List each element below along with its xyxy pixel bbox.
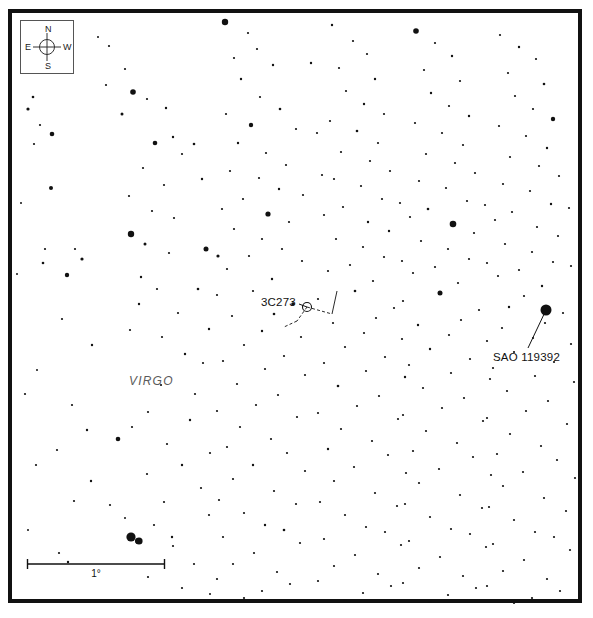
star-marker <box>468 115 470 117</box>
star-marker <box>338 67 340 69</box>
star-marker <box>177 312 179 314</box>
star-marker <box>383 256 385 258</box>
star-marker <box>553 536 555 538</box>
star-marker <box>209 593 211 595</box>
star-marker <box>478 309 480 311</box>
star-marker <box>337 385 340 388</box>
star-marker <box>451 55 453 57</box>
star-marker <box>124 517 126 519</box>
star-marker <box>273 313 276 316</box>
star-marker <box>497 275 499 277</box>
star-marker <box>32 96 35 99</box>
sao-star-marker[interactable] <box>541 305 552 316</box>
star-marker <box>518 269 520 271</box>
finder-line <box>284 321 297 327</box>
star-marker <box>344 599 346 601</box>
star-marker <box>558 175 560 177</box>
star-marker <box>173 217 175 219</box>
star-marker <box>299 542 301 544</box>
star-marker <box>434 42 436 44</box>
star-marker <box>333 480 335 482</box>
star-marker <box>216 254 219 257</box>
star-marker <box>265 152 267 154</box>
star-marker <box>74 248 76 250</box>
star-marker <box>36 369 38 371</box>
star-marker <box>393 307 395 309</box>
star-marker <box>181 153 183 155</box>
star-marker <box>441 132 443 134</box>
star-marker <box>42 262 45 265</box>
star-marker <box>511 211 513 213</box>
star-marker <box>469 358 471 360</box>
star-marker <box>466 200 468 202</box>
star-marker <box>543 497 545 499</box>
sao-119392-star[interactable] <box>541 305 552 316</box>
star-marker <box>531 597 533 599</box>
star-marker <box>232 478 234 480</box>
star-marker <box>243 512 245 514</box>
star-marker <box>165 107 167 109</box>
star-marker <box>296 416 298 418</box>
star-marker <box>550 203 552 205</box>
star-marker <box>536 226 538 228</box>
star-marker <box>388 230 390 232</box>
star-marker <box>546 147 548 149</box>
star-marker <box>344 514 346 516</box>
star-marker <box>418 180 420 182</box>
star-marker <box>502 485 504 487</box>
star-marker <box>425 153 427 155</box>
star-marker <box>26 107 29 110</box>
star-marker <box>522 471 524 473</box>
star-marker <box>349 264 351 266</box>
star-marker <box>144 243 147 246</box>
star-marker <box>371 440 373 442</box>
star-marker <box>408 540 410 542</box>
star-marker <box>552 261 554 263</box>
star-marker <box>450 221 457 228</box>
star-marker <box>413 28 419 34</box>
star-marker <box>562 312 564 314</box>
star-marker <box>484 204 486 206</box>
star-marker <box>547 400 549 402</box>
star-marker <box>33 143 35 145</box>
star-marker <box>201 178 203 180</box>
star-marker <box>340 428 342 430</box>
star-marker <box>27 529 29 531</box>
star-marker <box>418 482 420 484</box>
star-marker <box>295 128 297 130</box>
star-marker <box>218 499 220 501</box>
star-marker <box>365 370 367 372</box>
stars-group <box>16 19 576 607</box>
star-marker <box>194 393 196 395</box>
star-marker <box>20 202 22 204</box>
star-marker <box>559 590 561 592</box>
star-marker <box>423 69 425 71</box>
star-marker <box>399 202 401 204</box>
star-marker <box>317 298 319 300</box>
star-marker <box>226 446 228 448</box>
star-marker <box>184 353 186 355</box>
star-marker <box>97 36 99 38</box>
star-marker <box>396 505 398 507</box>
star-marker <box>352 40 354 42</box>
star-marker <box>317 412 319 414</box>
star-marker <box>409 216 411 218</box>
star-marker <box>128 195 130 197</box>
star-marker <box>504 243 506 245</box>
chart-frame: N S E W 3C273 SAO 119392 VIRGO 1° <box>8 9 582 603</box>
star-marker <box>86 429 88 431</box>
star-marker <box>146 473 148 475</box>
star-marker <box>271 278 273 280</box>
star-marker <box>90 480 92 482</box>
star-marker <box>514 95 516 97</box>
star-marker <box>208 328 210 330</box>
star-marker <box>105 84 107 86</box>
star-marker <box>166 443 168 445</box>
star-marker <box>316 132 318 134</box>
star-marker <box>369 160 371 162</box>
star-marker <box>513 519 515 521</box>
star-marker <box>73 500 75 502</box>
star-marker <box>374 492 376 494</box>
star-marker <box>462 575 464 577</box>
star-marker <box>463 397 465 399</box>
